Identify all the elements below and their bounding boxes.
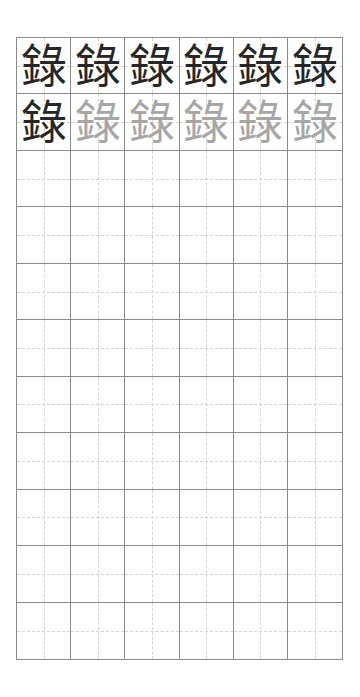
model-character: 錄: [234, 38, 287, 93]
grid-cell[interactable]: [288, 151, 342, 207]
grid-cell[interactable]: [125, 151, 179, 207]
grid-cell[interactable]: [234, 151, 288, 207]
horizontal-guide-line: [180, 517, 233, 518]
grid-cell[interactable]: 錄: [17, 38, 71, 94]
horizontal-guide-line: [288, 517, 342, 518]
grid-cell[interactable]: [180, 264, 234, 320]
model-character: 錄: [71, 38, 124, 93]
grid-cell[interactable]: [234, 264, 288, 320]
grid-cell[interactable]: [125, 603, 179, 659]
grid-cell[interactable]: [71, 151, 125, 207]
grid-cell[interactable]: [234, 603, 288, 659]
grid-cell[interactable]: [234, 320, 288, 376]
grid-cell[interactable]: 錄: [17, 94, 71, 150]
grid-cell[interactable]: [125, 433, 179, 489]
horizontal-guide-line: [288, 235, 342, 236]
grid-cell[interactable]: [71, 603, 125, 659]
grid-cell[interactable]: [288, 377, 342, 433]
grid-cell[interactable]: [17, 546, 71, 602]
grid-cell[interactable]: [234, 546, 288, 602]
grid-cell[interactable]: [17, 151, 71, 207]
grid-cell[interactable]: 錄: [180, 94, 234, 150]
grid-cell[interactable]: [125, 546, 179, 602]
horizontal-guide-line: [234, 348, 287, 349]
grid-cell[interactable]: [288, 320, 342, 376]
horizontal-guide-line: [125, 404, 178, 405]
grid-cell[interactable]: [180, 151, 234, 207]
grid-cell[interactable]: [17, 264, 71, 320]
grid-cell[interactable]: [288, 264, 342, 320]
grid-cell[interactable]: [234, 207, 288, 263]
grid-cell[interactable]: [234, 377, 288, 433]
grid-cell[interactable]: [17, 207, 71, 263]
horizontal-guide-line: [125, 574, 178, 575]
horizontal-guide-line: [234, 631, 287, 632]
grid-cell[interactable]: [17, 603, 71, 659]
grid-cell[interactable]: [71, 377, 125, 433]
grid-cell[interactable]: [71, 490, 125, 546]
grid-cell[interactable]: [17, 320, 71, 376]
trace-character: 錄: [180, 94, 233, 149]
grid-cell[interactable]: [180, 207, 234, 263]
grid-cell[interactable]: [125, 264, 179, 320]
grid-cell[interactable]: 錄: [234, 94, 288, 150]
grid-cell[interactable]: 錄: [125, 94, 179, 150]
horizontal-guide-line: [17, 292, 70, 293]
grid-cell[interactable]: [71, 433, 125, 489]
grid-cell[interactable]: [17, 433, 71, 489]
grid-cell[interactable]: 錄: [288, 94, 342, 150]
horizontal-guide-line: [288, 179, 342, 180]
grid-cell[interactable]: [288, 546, 342, 602]
grid-cell[interactable]: [125, 320, 179, 376]
grid-cell[interactable]: [288, 207, 342, 263]
grid-cell[interactable]: [17, 377, 71, 433]
grid-cell[interactable]: [180, 377, 234, 433]
horizontal-guide-line: [180, 461, 233, 462]
model-character: 錄: [17, 38, 70, 93]
grid-cell[interactable]: 錄: [71, 94, 125, 150]
trace-character: 錄: [234, 94, 287, 149]
grid-cell[interactable]: [234, 433, 288, 489]
grid-cell[interactable]: [288, 433, 342, 489]
horizontal-guide-line: [234, 517, 287, 518]
grid-cell[interactable]: [180, 490, 234, 546]
grid-cell[interactable]: 錄: [234, 38, 288, 94]
model-character: 錄: [180, 38, 233, 93]
horizontal-guide-line: [288, 631, 342, 632]
grid-cell[interactable]: 錄: [288, 38, 342, 94]
grid-cell[interactable]: [180, 546, 234, 602]
grid-cell[interactable]: [125, 377, 179, 433]
horizontal-guide-line: [234, 235, 287, 236]
grid-cell[interactable]: [125, 207, 179, 263]
horizontal-guide-line: [71, 179, 124, 180]
grid-cell[interactable]: [288, 490, 342, 546]
grid-cell[interactable]: [71, 546, 125, 602]
grid-cell[interactable]: [71, 264, 125, 320]
horizontal-guide-line: [234, 292, 287, 293]
grid-cell[interactable]: 錄: [125, 38, 179, 94]
horizontal-guide-line: [17, 179, 70, 180]
grid-cell[interactable]: 錄: [180, 38, 234, 94]
trace-character: 錄: [71, 94, 124, 149]
grid-cell[interactable]: [234, 490, 288, 546]
grid-cell[interactable]: [71, 320, 125, 376]
grid-cell[interactable]: [288, 603, 342, 659]
horizontal-guide-line: [288, 461, 342, 462]
grid-cell[interactable]: 錄: [71, 38, 125, 94]
grid-cell[interactable]: [180, 320, 234, 376]
horizontal-guide-line: [71, 235, 124, 236]
horizontal-guide-line: [234, 461, 287, 462]
horizontal-guide-line: [288, 574, 342, 575]
model-character: 錄: [288, 38, 342, 93]
horizontal-guide-line: [71, 631, 124, 632]
horizontal-guide-line: [17, 574, 70, 575]
horizontal-guide-line: [180, 235, 233, 236]
model-character: 錄: [125, 38, 178, 93]
grid-cell[interactable]: [17, 490, 71, 546]
grid-cell[interactable]: [71, 207, 125, 263]
horizontal-guide-line: [288, 404, 342, 405]
grid-cell[interactable]: [180, 603, 234, 659]
horizontal-guide-line: [71, 574, 124, 575]
grid-cell[interactable]: [125, 490, 179, 546]
grid-cell[interactable]: [180, 433, 234, 489]
